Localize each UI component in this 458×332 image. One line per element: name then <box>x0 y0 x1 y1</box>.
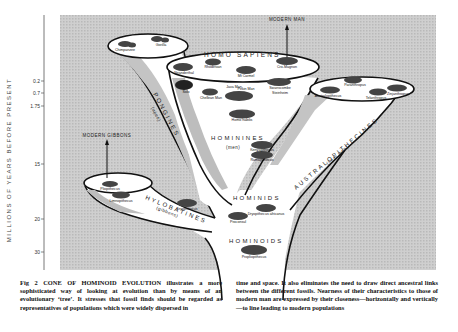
figure: Chimpanzee Gorilla Neanderthal Rhodesian… <box>0 0 458 332</box>
svg-text:Gorilla: Gorilla <box>156 43 166 47</box>
tick-label: 0.2 <box>20 78 40 84</box>
caption-lead: Fig 2 CONE OF HOMINOID EVOLUTION <box>20 279 161 286</box>
svg-text:Kenyapithecus: Kenyapithecus <box>250 148 274 152</box>
tick-label: 1.75 <box>20 103 40 109</box>
tick-label: 20 <box>20 216 40 222</box>
svg-text:Australopithecus: Australopithecus <box>315 94 342 98</box>
svg-text:Chellean Man: Chellean Man <box>200 96 222 100</box>
svg-text:Proconsul: Proconsul <box>230 220 246 224</box>
svg-text:Paranthropus: Paranthropus <box>344 83 366 87</box>
svg-text:Solo: Solo <box>182 90 189 94</box>
tick-label: 0.7 <box>20 90 40 96</box>
svg-text:Neanderthal: Neanderthal <box>174 71 194 75</box>
hominoids-label: HOMINOIDS <box>229 238 283 244</box>
svg-text:Swanscombe: Swanscombe <box>269 86 291 90</box>
modern-man-label: MODERN MAN <box>269 17 305 22</box>
svg-text:Propliopithecus: Propliopithecus <box>242 255 267 259</box>
svg-text:Cro-Magnon: Cro-Magnon <box>277 65 297 69</box>
svg-text:Telanthropus: Telanthropus <box>366 96 387 100</box>
svg-text:Pliopithecus: Pliopithecus <box>100 187 120 191</box>
hominids-label: HOMINIDS <box>233 195 281 201</box>
svg-text:Steinheim: Steinheim <box>272 91 288 95</box>
caption-left: Fig 2 CONE OF HOMINOID EVOLUTION illustr… <box>20 279 222 312</box>
svg-text:Dryopithecus africanus: Dryopithecus africanus <box>248 212 285 216</box>
caption-right: time and space. It also eliminates the n… <box>236 279 438 312</box>
svg-text:Ramapithecus: Ramapithecus <box>251 158 274 162</box>
hominines-label: HOMININES <box>211 135 265 141</box>
svg-text:Pekin Man: Pekin Man <box>238 87 255 91</box>
hominines-sub-label: (men) <box>226 145 240 150</box>
homo-sapiens-label: HOMO SAPIENS <box>204 51 281 58</box>
tick-label: 30 <box>20 249 40 255</box>
fossil-label: Chimpanzee <box>115 48 135 52</box>
svg-text:Limnopithecus: Limnopithecus <box>109 199 132 203</box>
tick-label: 15 <box>20 161 40 167</box>
caption-right-text: time and space. It also eliminates the n… <box>236 279 438 311</box>
svg-text:Mt Carmel: Mt Carmel <box>238 74 255 78</box>
modern-gibbons-label: MODERN GIBBONS <box>83 133 132 138</box>
svg-text:Homo habilis: Homo habilis <box>232 118 253 122</box>
axis-title: MILLIONS OF YEARS BEFORE PRESENT <box>2 60 16 260</box>
svg-text:Zinjanthropus: Zinjanthropus <box>387 92 409 96</box>
svg-text:Rhodesian: Rhodesian <box>204 65 221 69</box>
